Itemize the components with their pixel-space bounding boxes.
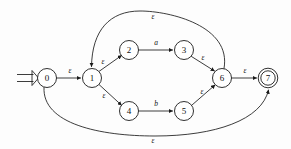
nfa-diagram-figure: ε ε a ε ε b ε ε ε ε 0 1 2 (0, 0, 291, 149)
state-1-label: 1 (90, 73, 95, 83)
edge-label-5-6: ε (201, 87, 204, 96)
state-4-label: 4 (127, 106, 132, 116)
edge-label-6-7: ε (244, 66, 247, 75)
state-5-label: 5 (182, 106, 187, 116)
edge-label-6-1-arc: ε (152, 12, 155, 21)
states-group: 0 1 2 3 4 5 6 (38, 41, 278, 121)
edges-group (44, 11, 269, 136)
state-0-label: 0 (45, 73, 50, 83)
state-node-1[interactable]: 1 (83, 69, 102, 88)
state-6-label: 6 (220, 73, 225, 83)
state-7-label: 7 (266, 73, 271, 83)
state-node-6[interactable]: 6 (213, 69, 232, 88)
edge-label-3-6: ε (202, 53, 205, 62)
edge-label-2-3: a (154, 38, 158, 47)
state-node-5[interactable]: 5 (175, 102, 194, 121)
state-3-label: 3 (182, 45, 187, 55)
state-node-2[interactable]: 2 (120, 41, 139, 60)
state-node-7-accepting[interactable]: 7 (258, 68, 278, 88)
edge-label-1-4: ε (103, 91, 106, 100)
edge-6-to-1-epsilon-arc (92, 11, 225, 69)
edge-0-to-7-epsilon-arc (44, 88, 269, 137)
state-2-label: 2 (127, 45, 132, 55)
edge-label-1-2: ε (102, 57, 105, 66)
edge-label-4-5: b (154, 99, 158, 108)
edge-label-0-1: ε (69, 66, 72, 75)
edge-label-0-7-arc: ε (152, 136, 155, 145)
nfa-canvas: ε ε a ε ε b ε ε ε ε 0 1 2 (0, 0, 291, 149)
state-node-4[interactable]: 4 (120, 102, 139, 121)
state-node-0[interactable]: 0 (38, 69, 57, 88)
state-node-3[interactable]: 3 (175, 41, 194, 60)
start-arrow-marker (17, 71, 39, 86)
